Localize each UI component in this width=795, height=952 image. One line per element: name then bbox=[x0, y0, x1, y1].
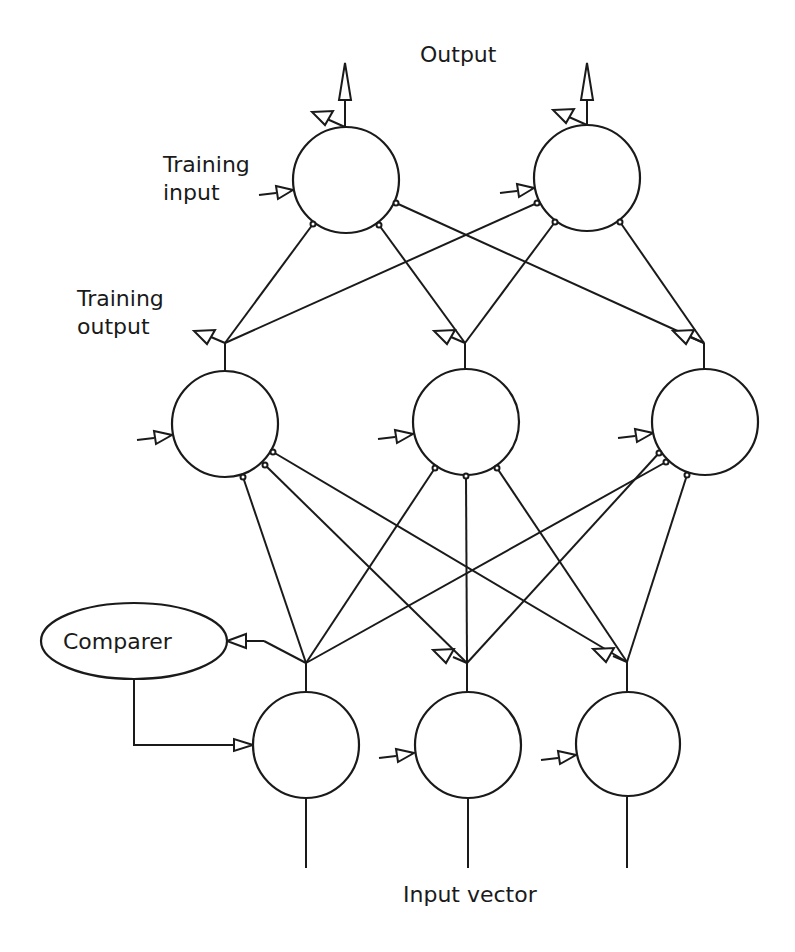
output-label: Output bbox=[420, 42, 497, 67]
training-output-arrow-icon bbox=[593, 648, 614, 662]
training-output-arrow-icon bbox=[553, 109, 574, 123]
input-to-hidden-connections bbox=[243, 452, 687, 692]
comparer-label: Comparer bbox=[63, 629, 173, 654]
training-output-label-line2: output bbox=[77, 314, 150, 339]
comparer-feed-arrow-icon bbox=[227, 634, 246, 648]
comparer-feedback-path bbox=[134, 679, 253, 751]
hidden-neuron-1 bbox=[172, 371, 278, 477]
training-input-label-line2: input bbox=[163, 180, 220, 205]
training-input-arrow-icon bbox=[558, 751, 576, 764]
output-arrow-icon bbox=[581, 63, 593, 100]
training-input-label-line1: Training bbox=[162, 152, 250, 177]
input-vector-lines bbox=[306, 797, 627, 868]
training-input-arrow-icon bbox=[396, 749, 414, 762]
training-output-label-line1: Training bbox=[76, 286, 164, 311]
network-diagram: Output Training input Training output Co… bbox=[0, 0, 795, 952]
comparer-output-arrow-icon bbox=[234, 739, 253, 751]
output-arrow-icon bbox=[339, 63, 351, 100]
output-arrows bbox=[339, 63, 593, 127]
training-input-arrow-icon bbox=[517, 184, 534, 197]
training-input-arrow-icon bbox=[276, 186, 293, 199]
training-output-arrow-icon bbox=[673, 330, 694, 344]
hidden-layer bbox=[172, 369, 758, 477]
hidden-to-output-connections bbox=[225, 203, 704, 371]
training-input-arrow-icon bbox=[154, 431, 172, 444]
input-neuron-1 bbox=[253, 692, 359, 798]
hidden-neuron-2 bbox=[413, 369, 519, 475]
training-input-arrow-icon bbox=[635, 429, 653, 442]
training-output-arrow-icon bbox=[433, 649, 454, 663]
training-output-arrow-icon bbox=[434, 330, 455, 344]
input-neuron-2 bbox=[415, 692, 521, 798]
training-input-arrow-icon bbox=[395, 430, 413, 443]
output-neuron-1 bbox=[293, 127, 399, 233]
input-vector-label: Input vector bbox=[403, 882, 538, 907]
training-output-arrow-icon bbox=[312, 111, 333, 125]
training-output-arrow-icon bbox=[194, 330, 215, 344]
output-layer bbox=[293, 125, 640, 233]
input-neuron-3 bbox=[576, 692, 680, 796]
input-layer bbox=[253, 692, 680, 798]
output-neuron-2 bbox=[534, 125, 640, 231]
